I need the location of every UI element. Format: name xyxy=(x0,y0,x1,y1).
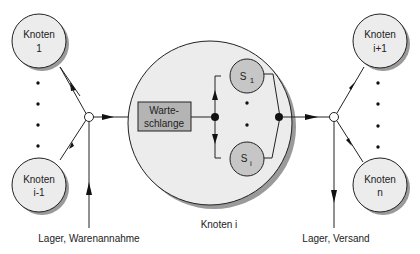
node-index: n xyxy=(377,187,383,198)
right-split xyxy=(283,67,364,228)
server-label: S xyxy=(241,153,248,164)
node-index: i-1 xyxy=(33,187,45,198)
join-point xyxy=(275,113,283,121)
sink-label: Lager, Versand xyxy=(302,233,369,244)
node-knoten-n: Knoten n xyxy=(353,158,410,215)
ellipsis-dot xyxy=(245,123,248,126)
node-index: i+1 xyxy=(373,43,387,54)
arrow-head-icon xyxy=(346,138,352,146)
node-label: Knoten xyxy=(23,174,55,185)
server-label: S xyxy=(240,71,247,82)
ellipsis-dot xyxy=(245,101,248,104)
station-knoten-i: Warte- schlange S 1 S i xyxy=(128,41,296,209)
node-label: Knoten xyxy=(364,174,396,185)
merge-point xyxy=(85,113,94,122)
server-subscript: i xyxy=(250,159,252,168)
queue-label-line1: Warte- xyxy=(149,105,179,116)
arrow-head-icon xyxy=(349,82,355,90)
server-subscript: 1 xyxy=(250,76,255,85)
source-label: Lager, Warenannahme xyxy=(38,233,140,244)
server-s1 xyxy=(230,59,264,93)
node-index: 1 xyxy=(36,43,42,54)
node-knoten-i-minus-1: Knoten i-1 xyxy=(12,158,69,215)
arrow-down-icon xyxy=(331,190,337,203)
arrow-right-icon xyxy=(102,114,114,120)
node-knoten-1: Knoten 1 xyxy=(12,14,69,71)
split-point xyxy=(211,113,219,121)
ellipsis-dots-left xyxy=(36,81,39,147)
split-point-out xyxy=(330,113,339,122)
arrow-up-icon xyxy=(86,182,92,195)
queue-label-line2: schlange xyxy=(144,118,184,129)
node-knoten-i-plus-1: Knoten i+1 xyxy=(353,14,410,71)
queueing-network-diagram: Knoten 1 Knoten i-1 Lager, Warenannahme … xyxy=(0,0,420,254)
node-label: Knoten xyxy=(23,29,55,40)
station-label: Knoten i xyxy=(201,219,238,230)
ellipsis-dots-right xyxy=(376,81,379,148)
arrow-right-icon xyxy=(305,114,318,120)
node-label: Knoten xyxy=(364,29,396,40)
left-merge xyxy=(60,67,137,228)
